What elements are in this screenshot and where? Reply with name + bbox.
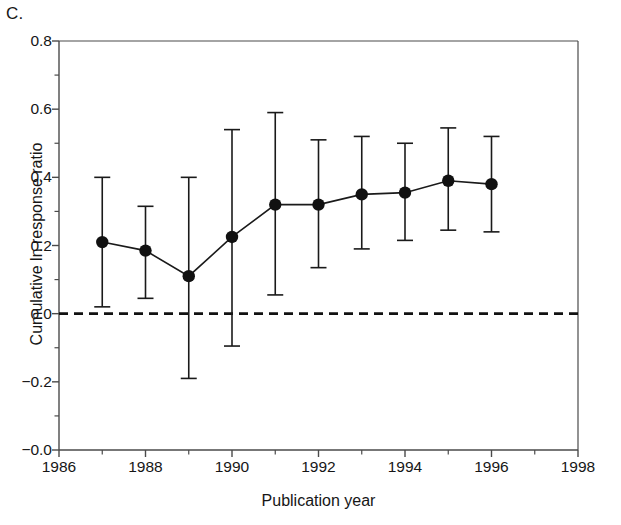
y-axis-tick-label: 0.0 (6, 305, 52, 323)
data-series-layer (94, 113, 499, 379)
data-point-marker (485, 178, 497, 190)
data-point-marker (356, 188, 368, 200)
y-axis-tick-label: 0.4 (6, 168, 52, 186)
data-point-marker (226, 231, 238, 243)
data-point-group (440, 128, 456, 230)
data-point-marker (96, 236, 108, 248)
x-axis-title: Publication year (59, 492, 578, 510)
data-point-group (311, 140, 327, 268)
data-point-marker (442, 175, 454, 187)
chart-plot-area (0, 0, 621, 525)
data-point-marker (139, 244, 151, 256)
x-axis-tick-label: 1988 (111, 458, 181, 476)
y-axis-tick-label: 0.8 (6, 32, 52, 50)
y-axis-tick-label: −0.0 (6, 441, 52, 459)
data-point-marker (312, 198, 324, 210)
data-point-group (397, 143, 413, 240)
y-axis-tick-label: 0.6 (6, 100, 52, 118)
x-axis-tick-label: 1986 (24, 458, 94, 476)
x-axis-tick-label: 1990 (197, 458, 267, 476)
y-axis-tick-label: 0.2 (6, 237, 52, 255)
data-point-marker (399, 186, 411, 198)
data-point-group (181, 177, 197, 378)
data-point-group (484, 136, 500, 231)
series-connector-line (102, 181, 491, 276)
data-point-marker (269, 198, 281, 210)
axes-layer (52, 41, 578, 457)
y-axis-tick-label: −0.2 (6, 373, 52, 391)
x-axis-tick-label: 1994 (370, 458, 440, 476)
figure-panel-c: C. Cumulative ln response ratio Publicat… (0, 0, 621, 525)
x-axis-tick-label: 1992 (284, 458, 354, 476)
x-axis-tick-label: 1996 (457, 458, 527, 476)
y-axis-tick-labels: 0.80.60.40.20.0−0.2−0.0 (0, 0, 52, 525)
data-point-group (94, 177, 110, 307)
x-axis-tick-label: 1998 (543, 458, 613, 476)
data-point-marker (183, 270, 195, 282)
data-point-group (267, 113, 283, 295)
data-point-group (138, 206, 154, 298)
data-point-group (354, 136, 370, 248)
